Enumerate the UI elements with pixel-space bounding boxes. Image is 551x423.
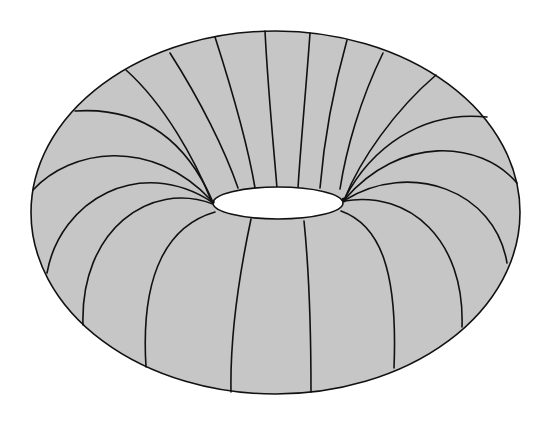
torus-svg [0,0,551,423]
torus-hole [213,187,343,219]
torus-diagram: Torus with meridian circles [0,0,551,423]
left-pinch-point [211,200,215,204]
right-pinch-point [342,198,347,203]
